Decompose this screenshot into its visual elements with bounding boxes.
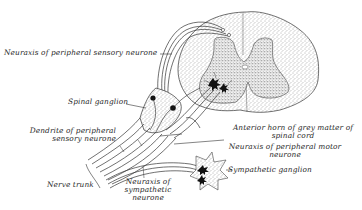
label-dendrite-line2: sensory neurone <box>26 135 116 143</box>
label-sympathetic-ganglion: Sympathetic ganglion <box>228 166 312 174</box>
spinal-cord-diagram: Neuraxis of peripheral sensory neurone S… <box>0 0 362 210</box>
label-anterior-horn-line2: spinal cord <box>228 132 358 140</box>
label-nerve-trunk: Nerve trunk <box>47 181 94 189</box>
label-spinal-ganglion: Spinal ganglion <box>68 98 128 106</box>
diagram-artwork <box>0 0 362 210</box>
label-neuraxis-sensory: Neuraxis of peripheral sensory neurone <box>4 49 157 57</box>
label-neuraxis-motor-line2: neurone <box>226 151 344 159</box>
sympathetic-ganglion <box>190 152 228 190</box>
label-neuraxis-sympathetic-line3: neurone <box>118 194 178 202</box>
spinal-cord-section <box>178 12 319 113</box>
